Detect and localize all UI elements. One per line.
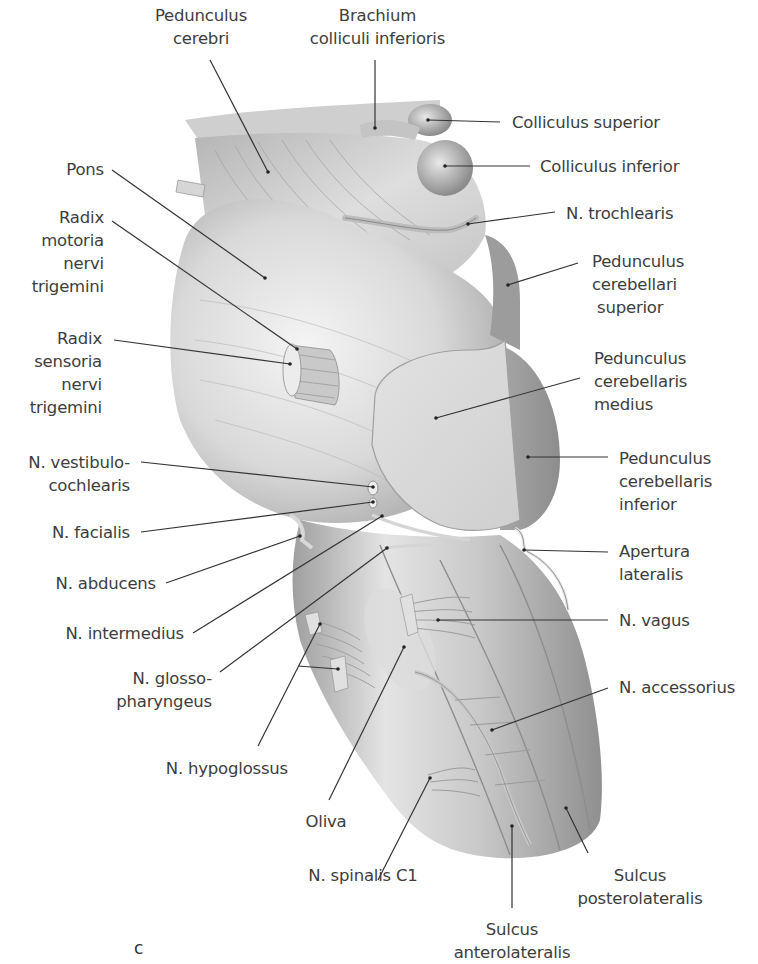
label-line: nervi (8, 373, 102, 396)
trigeminal-roots (283, 344, 339, 405)
label-line: medius (594, 393, 687, 416)
label-line: motoria (10, 229, 104, 252)
label-line: Radix (10, 206, 104, 229)
label-n-trochlearis: N. trochlearis (566, 202, 673, 225)
label-line: pharyngeus (90, 690, 212, 713)
label-colliculus-superior: Colliculus superior (512, 111, 660, 134)
label-line: Pons (40, 158, 104, 181)
label-line: N. glosso- (90, 667, 212, 690)
label-line: cerebellari (592, 273, 684, 296)
label-brachium-colliculi-inferioris: Brachium colliculi inferioris (300, 4, 455, 50)
label-n-spinalis-c1: N. spinalis C1 (296, 864, 430, 887)
label-radix-sensoria-nervi-trigemini: Radix sensoria nervi trigemini (8, 327, 102, 419)
label-n-facialis: N. facialis (20, 521, 130, 544)
label-n-hypoglossus: N. hypoglossus (120, 757, 288, 780)
panel-letter: c (134, 938, 143, 958)
label-n-glossopharyngeus: N. glosso- pharyngeus (90, 667, 212, 713)
label-line: N. intermedius (40, 622, 184, 645)
label-pedunculus-cerebellari-superior: Pedunculus cerebellari superior (592, 250, 684, 319)
label-line: trigemini (10, 275, 104, 298)
label-line: superior (592, 296, 684, 319)
label-line: Pedunculus (592, 250, 684, 273)
label-line: N. hypoglossus (120, 757, 288, 780)
label-line: cerebri (146, 27, 256, 50)
label-line: Radix (8, 327, 102, 350)
label-line: Brachium (300, 4, 455, 27)
label-line: N. spinalis C1 (296, 864, 430, 887)
brainstem-lateral-diagram: Pedunculus cerebri Brachium colliculi in… (0, 0, 758, 964)
label-line: Sulcus (445, 918, 579, 941)
label-line: Pedunculus (619, 447, 712, 470)
label-line: colliculi inferioris (300, 27, 455, 50)
label-line: Pedunculus (146, 4, 256, 27)
label-line: inferior (619, 493, 712, 516)
label-oliva: Oliva (296, 810, 356, 833)
label-radix-motoria-nervi-trigemini: Radix motoria nervi trigemini (10, 206, 104, 298)
label-n-vestibulocochlearis: N. vestibulo- cochlearis (8, 451, 130, 497)
label-sulcus-posterolateralis: Sulcus posterolateralis (570, 864, 710, 910)
label-line: sensoria (8, 350, 102, 373)
label-n-vagus: N. vagus (619, 609, 690, 632)
label-line: Sulcus (570, 864, 710, 887)
label-pedunculus-cerebellaris-inferior: Pedunculus cerebellaris inferior (619, 447, 712, 516)
label-line: Colliculus superior (512, 111, 660, 134)
label-line: Apertura (619, 540, 690, 563)
label-line: Oliva (296, 810, 356, 833)
label-line: Pedunculus (594, 347, 687, 370)
label-pons: Pons (40, 158, 104, 181)
label-colliculus-inferior: Colliculus inferior (540, 155, 679, 178)
label-line: cerebellaris (594, 370, 687, 393)
label-line: posterolateralis (570, 887, 710, 910)
label-line: N. vestibulo- (8, 451, 130, 474)
label-line: cerebellaris (619, 470, 712, 493)
label-line: lateralis (619, 563, 690, 586)
label-line: N. vagus (619, 609, 690, 632)
label-n-abducens: N. abducens (30, 572, 156, 595)
label-pedunculus-cerebri: Pedunculus cerebri (146, 4, 256, 50)
label-line: N. facialis (20, 521, 130, 544)
label-n-intermedius: N. intermedius (40, 622, 184, 645)
label-line: N. accessorius (619, 676, 735, 699)
label-line: cochlearis (8, 474, 130, 497)
label-n-accessorius: N. accessorius (619, 676, 735, 699)
label-line: trigemini (8, 396, 102, 419)
label-pedunculus-cerebellaris-medius: Pedunculus cerebellaris medius (594, 347, 687, 416)
label-line: nervi (10, 252, 104, 275)
label-line: Colliculus inferior (540, 155, 679, 178)
label-line: N. trochlearis (566, 202, 673, 225)
label-line: N. abducens (30, 572, 156, 595)
label-sulcus-anterolateralis: Sulcus anterolateralis (445, 918, 579, 964)
medulla-oblongata (293, 520, 602, 858)
label-line: anterolateralis (445, 941, 579, 964)
label-apertura-lateralis: Apertura lateralis (619, 540, 690, 586)
